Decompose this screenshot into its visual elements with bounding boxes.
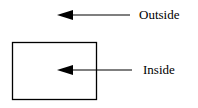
container-box <box>13 43 97 100</box>
outside-arrow <box>57 10 130 20</box>
outside-label: Outside <box>139 8 179 21</box>
inside-label: Inside <box>143 63 175 76</box>
inside-arrow <box>57 65 132 75</box>
